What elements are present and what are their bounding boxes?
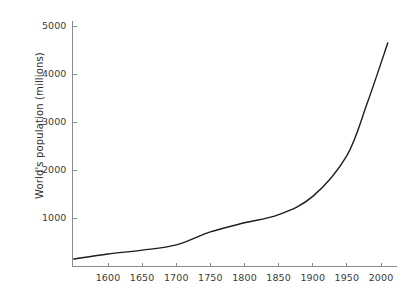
y-tick-label: 4000 <box>42 68 67 79</box>
population-growth-chart: World's population (millions) 1000200030… <box>0 0 416 296</box>
population-curve <box>74 43 388 259</box>
y-tick-label: 5000 <box>42 20 67 31</box>
y-tick-label: 1000 <box>42 212 67 223</box>
series-group <box>74 43 388 259</box>
y-tick-label: 2000 <box>42 164 67 175</box>
axes-group <box>73 21 397 267</box>
y-tick-label: 3000 <box>42 116 67 127</box>
chart-canvas <box>0 0 416 296</box>
ticks-group <box>73 26 382 267</box>
x-tick-label: 2000 <box>361 272 401 283</box>
